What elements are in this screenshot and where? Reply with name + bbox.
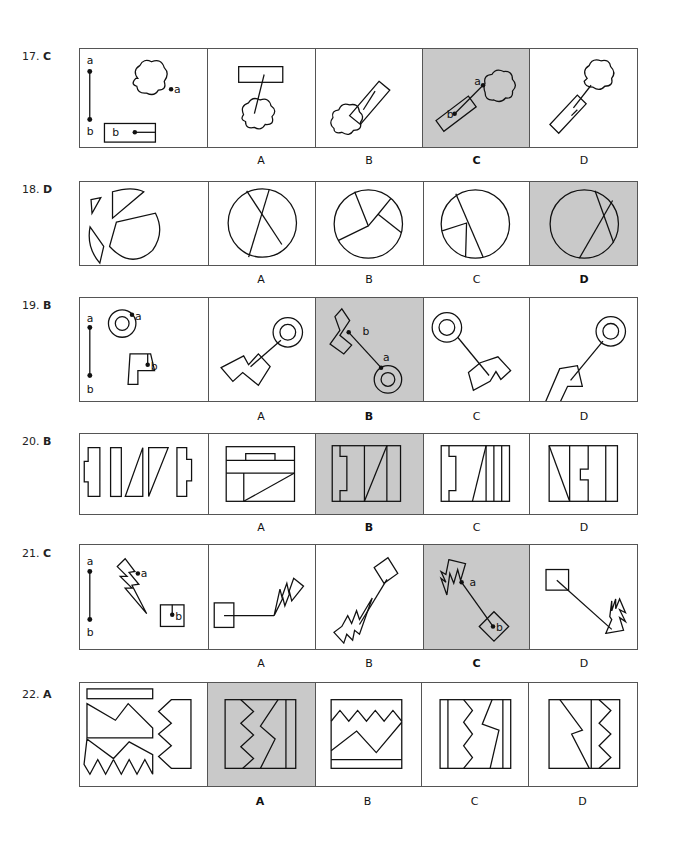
q17-label-b: B xyxy=(315,154,423,167)
q21-label-c: C xyxy=(423,657,530,670)
svg-text:a: a xyxy=(87,312,94,325)
q21-option-d[interactable] xyxy=(529,545,637,649)
q18-option-d-selected[interactable] xyxy=(529,182,637,265)
q20-option-b-selected[interactable] xyxy=(315,434,423,514)
q20-option-c[interactable] xyxy=(423,434,530,514)
q21-label-a: A xyxy=(207,657,315,670)
q18-option-c[interactable] xyxy=(423,182,530,265)
q21-option-labels: A B C D xyxy=(79,657,638,670)
q19-option-c[interactable] xyxy=(423,298,530,401)
q21-option-b[interactable] xyxy=(315,545,423,649)
svg-text:a: a xyxy=(135,310,142,323)
q20-label-b: B xyxy=(315,521,423,534)
q17-label-d: D xyxy=(530,154,638,167)
q22-label-c: C xyxy=(421,795,528,808)
q19-label-d: D xyxy=(530,410,638,423)
svg-text:b: b xyxy=(112,126,119,139)
question-number-21: 21. C xyxy=(22,547,51,560)
question-number-22: 22. A xyxy=(22,688,52,701)
q22-label-a: A xyxy=(206,795,314,808)
q18-label-d: D xyxy=(530,273,638,286)
q20-option-labels: A B C D xyxy=(79,521,638,534)
q22-option-a-selected[interactable] xyxy=(207,683,315,786)
svg-text:a: a xyxy=(383,351,390,364)
svg-text:a: a xyxy=(87,555,94,568)
q20-label-c: C xyxy=(423,521,530,534)
q17-option-d[interactable] xyxy=(529,49,637,147)
question-number-19: 19. B xyxy=(22,299,51,312)
q17-label-c: C xyxy=(423,154,530,167)
svg-text:a: a xyxy=(474,75,481,88)
question-18-row xyxy=(79,181,638,266)
q18-label-a: A xyxy=(207,273,315,286)
q17-stem: a b a b xyxy=(80,49,207,147)
q17-option-c-selected[interactable]: ab xyxy=(422,49,528,147)
question-22-row xyxy=(79,682,638,787)
q17-label-a: A xyxy=(207,154,315,167)
svg-text:a: a xyxy=(87,54,94,67)
svg-text:b: b xyxy=(87,626,94,639)
q19-option-a[interactable] xyxy=(208,298,316,401)
question-number-20: 20. B xyxy=(22,435,51,448)
question-number-18: 18. D xyxy=(22,183,52,196)
q17-option-b[interactable] xyxy=(315,49,422,147)
q21-label-b: B xyxy=(315,657,423,670)
q20-option-a[interactable] xyxy=(208,434,316,514)
question-21-row: a b a b ab xyxy=(79,544,638,650)
q20-label-a: A xyxy=(207,521,315,534)
q22-option-labels: A B C D xyxy=(79,795,638,808)
question-17-row: a b a b ab xyxy=(79,48,638,148)
question-number-17: 17. C xyxy=(22,50,51,63)
svg-text:b: b xyxy=(175,610,182,623)
svg-text:b: b xyxy=(87,383,94,396)
q22-option-d[interactable] xyxy=(528,683,637,786)
question-20-row xyxy=(79,433,638,515)
q21-option-a[interactable] xyxy=(208,545,316,649)
svg-text:a: a xyxy=(174,83,181,96)
q19-option-d[interactable] xyxy=(529,298,637,401)
q19-label-c: C xyxy=(423,410,530,423)
q18-label-b: B xyxy=(315,273,423,286)
q19-label-b: B xyxy=(315,410,423,423)
q21-stem: a b a b xyxy=(80,545,208,649)
svg-text:a: a xyxy=(469,576,476,589)
q19-label-a: A xyxy=(207,410,315,423)
q18-option-a[interactable] xyxy=(208,182,316,265)
q19-option-labels: A B C D xyxy=(79,410,638,423)
q22-stem xyxy=(80,683,207,786)
q18-stem xyxy=(80,182,208,265)
q22-label-d: D xyxy=(528,795,637,808)
q18-option-b[interactable] xyxy=(315,182,423,265)
q21-option-c-selected[interactable]: ab xyxy=(423,545,530,649)
q20-option-d[interactable] xyxy=(529,434,637,514)
q17-option-a[interactable] xyxy=(207,49,314,147)
svg-text:a: a xyxy=(141,567,148,580)
q22-option-c[interactable] xyxy=(421,683,528,786)
q17-stem-figure: a b a b xyxy=(80,49,207,147)
q22-label-b: B xyxy=(314,795,421,808)
svg-text:b: b xyxy=(363,325,370,338)
svg-text:b: b xyxy=(87,125,94,138)
q18-label-c: C xyxy=(423,273,530,286)
q22-option-b[interactable] xyxy=(315,683,422,786)
question-19-row: a b a b ba xyxy=(79,297,638,402)
q20-stem xyxy=(80,434,208,514)
q17-option-labels: A B C D xyxy=(79,154,638,167)
q20-label-d: D xyxy=(530,521,638,534)
svg-text:b: b xyxy=(151,360,158,373)
svg-text:b: b xyxy=(447,108,454,121)
q19-stem: a b a b xyxy=(80,298,208,401)
q18-option-labels: A B C D xyxy=(79,273,638,286)
q19-option-b-selected[interactable]: ba xyxy=(315,298,423,401)
q21-label-d: D xyxy=(530,657,638,670)
